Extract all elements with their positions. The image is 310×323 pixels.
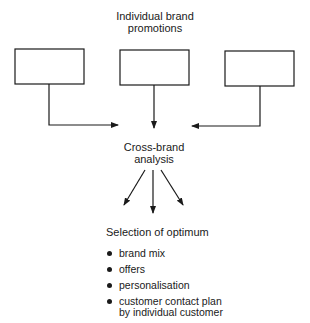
brand-box-left: [15, 49, 84, 84]
middle-label: Cross-brand analysis: [100, 141, 208, 165]
list-item: offers: [106, 264, 223, 275]
bullet-icon: [107, 267, 112, 272]
brand-box-middle: [120, 50, 189, 85]
bullet-icon: [107, 283, 112, 288]
arrow-right-to-analysis: [192, 86, 260, 126]
list-item: customer contact planby individual custo…: [106, 296, 223, 318]
middle-label-line2: analysis: [100, 153, 208, 165]
list-item: personalisation: [106, 280, 223, 291]
list-item: brand mix: [106, 248, 223, 259]
bullet-icon: [107, 299, 112, 304]
middle-label-line1: Cross-brand: [100, 141, 208, 153]
arrow-analysis-to-selection-right: [161, 170, 183, 205]
bullet-icon: [107, 251, 112, 256]
arrow-analysis-to-selection-left: [124, 170, 145, 205]
selection-list: brand mix offers personalisation custome…: [106, 248, 223, 323]
brand-box-right: [225, 51, 294, 86]
arrow-left-to-analysis: [49, 84, 118, 125]
selection-heading: Selection of optimum: [106, 226, 209, 238]
